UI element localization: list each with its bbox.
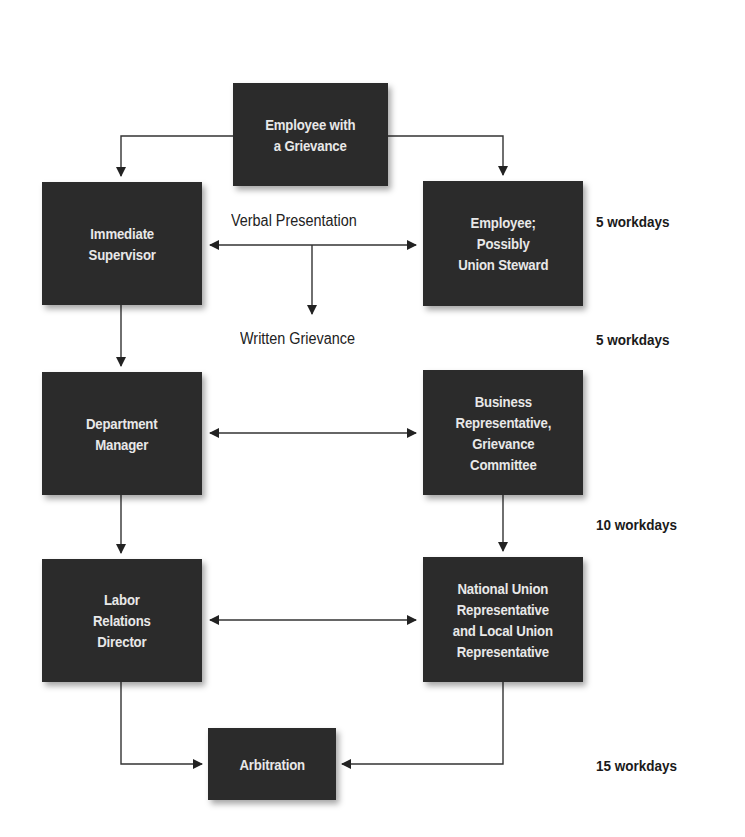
node-business-representative: Business Representative, Grievance Commi… xyxy=(423,370,583,495)
node-label: Arbitration xyxy=(239,754,305,775)
node-labor-relations-director: Labor Relations Director xyxy=(42,559,202,682)
node-national-union-representative: National Union Representative and Local … xyxy=(423,557,583,682)
node-employee-with-grievance: Employee with a Grievance xyxy=(233,83,388,186)
node-label: National Union Representative and Local … xyxy=(453,578,553,662)
time-limit-step1: 5 workdays xyxy=(596,213,670,230)
node-label: Employee with a Grievance xyxy=(265,114,355,156)
stage-label-written: Written Grievance xyxy=(240,330,355,348)
node-immediate-supervisor: Immediate Supervisor xyxy=(42,182,202,305)
node-label: Immediate Supervisor xyxy=(88,223,155,265)
time-limit-step3: 10 workdays xyxy=(596,516,677,533)
node-label: Business Representative, Grievance Commi… xyxy=(455,391,551,475)
time-limit-step4: 15 workdays xyxy=(596,757,677,774)
stage-label-verbal: Verbal Presentation xyxy=(231,212,357,230)
node-employee-union-steward: Employee; Possibly Union Steward xyxy=(423,181,583,306)
node-label: Labor Relations Director xyxy=(93,589,151,652)
node-department-manager: Department Manager xyxy=(42,372,202,495)
node-label: Employee; Possibly Union Steward xyxy=(458,212,548,275)
node-arbitration: Arbitration xyxy=(208,728,336,800)
node-label: Department Manager xyxy=(86,413,158,455)
time-limit-step2: 5 workdays xyxy=(596,331,670,348)
